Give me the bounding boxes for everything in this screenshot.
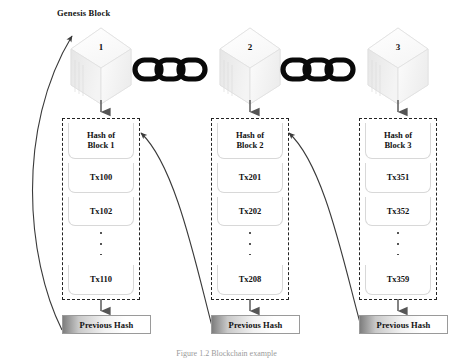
hash-cell-1: Hash of Block 1 bbox=[68, 123, 134, 159]
hash-cell-1-line2: Block 1 bbox=[87, 140, 114, 151]
chain-link-icon-group-2 bbox=[283, 60, 353, 79]
block-body-2: Hash of Block 2 Tx201 Tx202 Tx208 bbox=[211, 118, 289, 300]
previous-hash-bar-2: Previous Hash bbox=[211, 315, 300, 334]
ellipsis-dots-3 bbox=[365, 226, 431, 261]
block-body-1: Hash of Block 1 Tx100 Tx102 Tx110 bbox=[62, 118, 140, 300]
arrow-prevhash3-to-hash2 bbox=[289, 133, 362, 330]
genesis-block-label: Genesis Block bbox=[57, 8, 110, 18]
cube-icon-block-2 bbox=[220, 28, 280, 104]
tx-cell-last: Tx359 bbox=[365, 265, 431, 295]
tx-cell: Tx201 bbox=[217, 163, 283, 193]
hash-cell-3-line1: Hash of bbox=[384, 130, 412, 141]
tx-cell-last: Tx110 bbox=[68, 265, 134, 295]
chain-link-icon-group-1 bbox=[135, 60, 205, 79]
ellipsis-dots-1 bbox=[68, 226, 134, 261]
tx-cell: Tx102 bbox=[68, 197, 134, 227]
cube-icon-block-1 bbox=[71, 28, 131, 104]
hash-cell-1-line1: Hash of bbox=[87, 130, 115, 141]
tx-cell: Tx100 bbox=[68, 163, 134, 193]
arrow-prevhash2-to-hash1 bbox=[141, 133, 213, 330]
hash-cell-3-line2: Block 3 bbox=[384, 140, 411, 151]
blockchain-diagram: Genesis Block 1 2 3 Hash of Block 1 Tx10… bbox=[0, 0, 453, 358]
previous-hash-bar-1: Previous Hash bbox=[62, 315, 151, 334]
cube-number-2: 2 bbox=[243, 42, 257, 52]
block-body-3: Hash of Block 3 Tx351 Tx352 Tx359 bbox=[359, 118, 437, 300]
ellipsis-dots-2 bbox=[217, 226, 283, 261]
cube-number-1: 1 bbox=[94, 42, 108, 52]
hash-cell-2-line2: Block 2 bbox=[236, 140, 263, 151]
tx-cell: Tx352 bbox=[365, 197, 431, 227]
tx-cell: Tx351 bbox=[365, 163, 431, 193]
tx-cell-last: Tx208 bbox=[217, 265, 283, 295]
hash-cell-2: Hash of Block 2 bbox=[217, 123, 283, 159]
hash-cell-3: Hash of Block 3 bbox=[365, 123, 431, 159]
hash-cell-2-line1: Hash of bbox=[236, 130, 264, 141]
tx-cell: Tx202 bbox=[217, 197, 283, 227]
cube-icon-block-3 bbox=[368, 28, 428, 104]
figure-caption: Figure 1.2 Blockchain example bbox=[0, 349, 453, 358]
previous-hash-bar-3: Previous Hash bbox=[359, 315, 448, 334]
cube-number-3: 3 bbox=[391, 42, 405, 52]
